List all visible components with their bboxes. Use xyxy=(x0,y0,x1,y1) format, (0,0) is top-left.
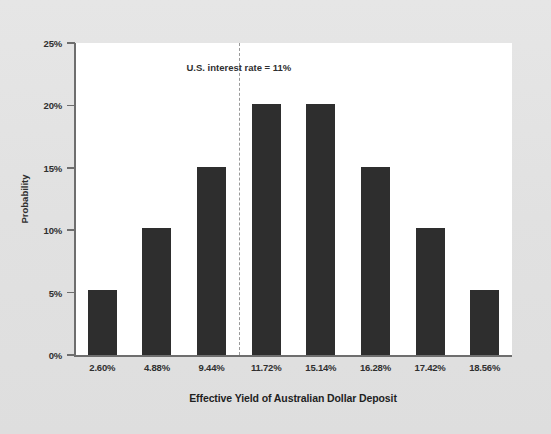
bar xyxy=(470,290,499,355)
chart-figure: 0%5%10%15%20%25% Probability U.S. intere… xyxy=(0,0,551,434)
bar xyxy=(252,104,281,355)
y-axis-tick xyxy=(67,292,75,294)
x-axis-tick-label: 17.42% xyxy=(415,362,446,373)
x-axis-tick-label: 16.28% xyxy=(360,362,391,373)
bar xyxy=(416,228,445,355)
reference-line-us-interest-rate xyxy=(239,43,240,355)
y-axis-tick xyxy=(67,229,75,231)
bar-series xyxy=(75,43,512,355)
x-axis-tick-labels: 2.60%4.88%9.44%11.72%15.14%16.28%17.42%1… xyxy=(75,362,512,380)
y-axis-tick xyxy=(67,105,75,107)
y-axis-tick-label: 20% xyxy=(44,100,62,111)
bar xyxy=(306,104,335,355)
y-axis-tick-label: 15% xyxy=(44,162,62,173)
y-axis-tick xyxy=(67,42,75,44)
x-axis-tick-label: 11.72% xyxy=(251,362,282,373)
x-axis-tick-label: 2.60% xyxy=(89,362,115,373)
y-axis-tick-label: 0% xyxy=(49,350,62,361)
y-axis-tick xyxy=(67,354,75,356)
bar xyxy=(197,167,226,355)
bar xyxy=(361,167,390,355)
x-axis-line xyxy=(74,355,512,357)
bar xyxy=(142,228,171,355)
y-axis-title: Probability xyxy=(19,174,30,223)
x-axis-title: Effective Yield of Australian Dollar Dep… xyxy=(189,392,397,404)
y-axis-tick-label: 25% xyxy=(44,38,62,49)
x-axis-tick-label: 15.14% xyxy=(305,362,336,373)
x-axis-tick-label: 4.88% xyxy=(144,362,170,373)
x-axis-tick-label: 9.44% xyxy=(199,362,225,373)
y-axis-tick-label: 10% xyxy=(44,225,62,236)
y-axis-tick-label: 5% xyxy=(49,287,62,298)
x-axis-tick-label: 18.56% xyxy=(469,362,500,373)
y-axis-tick xyxy=(67,167,75,169)
reference-line-label: U.S. interest rate = 11% xyxy=(186,62,291,73)
bar xyxy=(88,290,117,355)
